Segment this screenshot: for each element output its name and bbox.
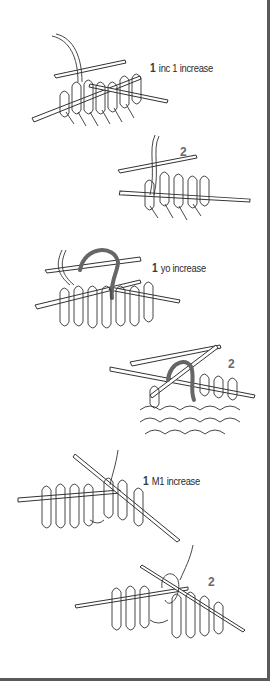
illustration-frame: 1inc 1 increase 2 1yo increase 2 1M1 inc… <box>0 0 270 681</box>
technique-label: yo increase <box>161 262 206 274</box>
step-number: 1 <box>150 61 155 75</box>
technique-label: M1 increase <box>152 475 200 487</box>
m1-step2-number: 2 <box>208 575 215 589</box>
yo-step2-number: 2 <box>228 357 235 371</box>
step-number: 1 <box>152 261 157 275</box>
m1-step2-illustration <box>0 0 270 681</box>
technique-label: inc 1 increase <box>159 62 213 74</box>
yo-step1-caption: 1yo increase <box>152 261 206 275</box>
inc1-step1-caption: 1inc 1 increase <box>150 61 213 75</box>
m1-step1-caption: 1M1 increase <box>143 474 200 488</box>
inc1-step2-number: 2 <box>180 145 187 159</box>
step-number: 1 <box>143 474 148 488</box>
